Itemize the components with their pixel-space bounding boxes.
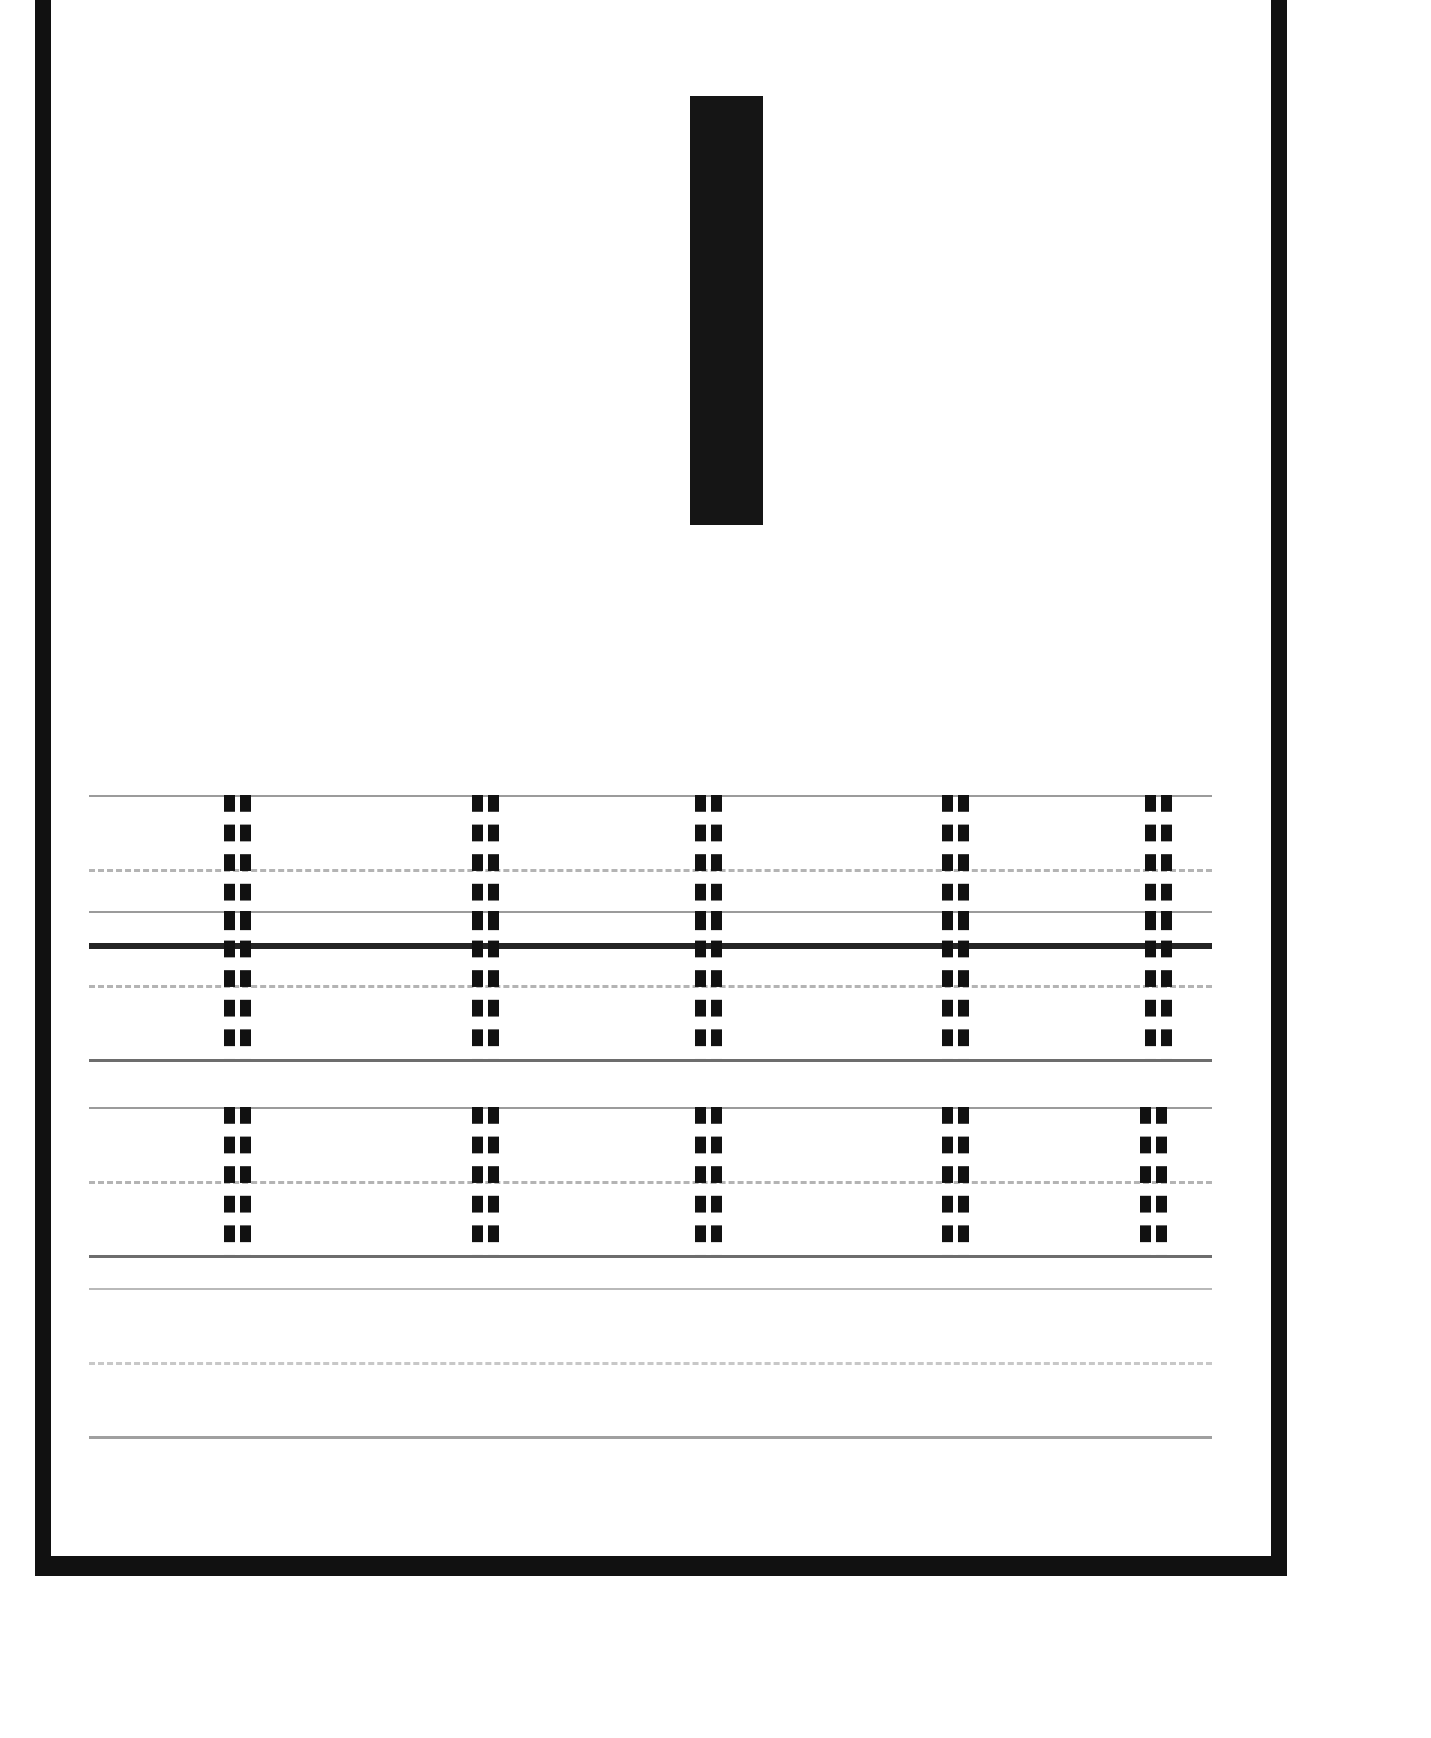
trace-glyph-i bbox=[221, 911, 255, 1059]
rule-baseline bbox=[89, 1436, 1212, 1439]
trace-stem-left bbox=[472, 1107, 483, 1255]
rule-top-line bbox=[89, 1288, 1212, 1290]
practice-row bbox=[89, 911, 1212, 1059]
trace-glyph-i bbox=[692, 911, 726, 1059]
trace-stem-left bbox=[942, 1107, 953, 1255]
worksheet-sheet bbox=[51, 0, 1271, 1556]
trace-stem-left bbox=[695, 1107, 706, 1255]
trace-stem-right bbox=[1161, 911, 1172, 1059]
trace-glyph-i bbox=[939, 911, 973, 1059]
trace-glyph-i bbox=[469, 911, 503, 1059]
trace-stem-right bbox=[958, 1107, 969, 1255]
rule-dashed-midline bbox=[89, 985, 1212, 988]
rule-dashed-midline bbox=[89, 1181, 1212, 1184]
rule-baseline bbox=[89, 1059, 1212, 1062]
rule-dashed-midline bbox=[89, 869, 1212, 872]
trace-stem-right bbox=[240, 1107, 251, 1255]
trace-stem-right bbox=[958, 911, 969, 1059]
rule-top-line bbox=[89, 911, 1212, 913]
trace-glyph-i bbox=[469, 1107, 503, 1255]
trace-stem-left bbox=[695, 911, 706, 1059]
model-letter-I bbox=[690, 96, 763, 525]
practice-row bbox=[89, 1288, 1212, 1436]
rule-top-line bbox=[89, 1107, 1212, 1109]
trace-glyph-i bbox=[1137, 1107, 1171, 1255]
trace-stem-right bbox=[711, 1107, 722, 1255]
trace-glyph-i bbox=[692, 1107, 726, 1255]
rule-top-line bbox=[89, 795, 1212, 797]
rule-dashed-midline bbox=[89, 1362, 1212, 1365]
trace-stem-left bbox=[224, 1107, 235, 1255]
trace-glyph-i bbox=[1142, 911, 1176, 1059]
trace-stem-left bbox=[224, 911, 235, 1059]
practice-row bbox=[89, 1107, 1212, 1255]
trace-glyph-i bbox=[939, 1107, 973, 1255]
trace-glyph-i bbox=[221, 1107, 255, 1255]
trace-stem-left bbox=[1145, 911, 1156, 1059]
trace-stem-left bbox=[1140, 1107, 1151, 1255]
trace-stem-right bbox=[1156, 1107, 1167, 1255]
rule-baseline bbox=[89, 1255, 1212, 1258]
trace-stem-right bbox=[240, 911, 251, 1059]
trace-stem-left bbox=[472, 911, 483, 1059]
trace-stem-right bbox=[488, 911, 499, 1059]
trace-stem-right bbox=[711, 911, 722, 1059]
trace-stem-left bbox=[942, 911, 953, 1059]
worksheet-page bbox=[0, 0, 1431, 1738]
trace-stem-right bbox=[488, 1107, 499, 1255]
